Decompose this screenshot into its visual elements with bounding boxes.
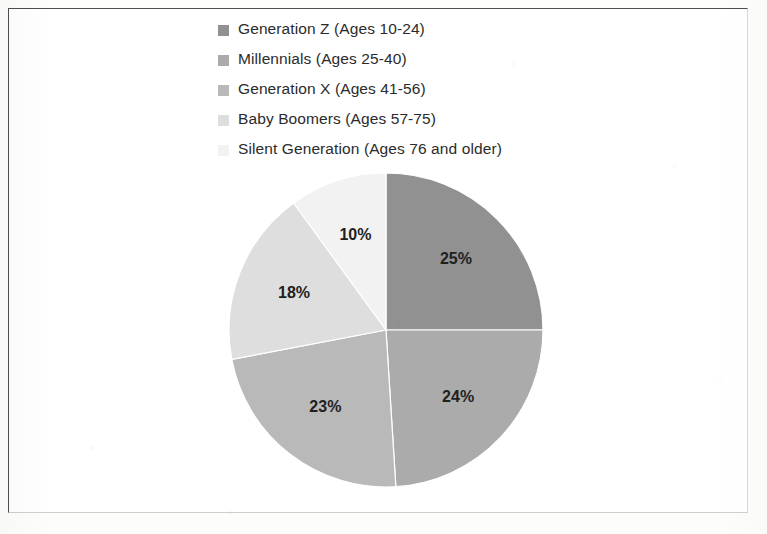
pie-data-label: 10% bbox=[339, 226, 371, 243]
legend-item-millennials[interactable]: Millennials (Ages 25-40) bbox=[218, 44, 502, 74]
legend-item-label: Generation Z (Ages 10-24) bbox=[238, 20, 425, 38]
pie-data-label: 18% bbox=[278, 284, 310, 301]
legend-swatch-icon bbox=[218, 145, 229, 156]
legend-item-generation-z[interactable]: Generation Z (Ages 10-24) bbox=[218, 14, 502, 44]
scanned-page: Generation Z (Ages 10-24) Millennials (A… bbox=[0, 0, 767, 534]
legend-item-silent-generation[interactable]: Silent Generation (Ages 76 and older) bbox=[218, 134, 502, 164]
legend-item-label: Millennials (Ages 25-40) bbox=[238, 50, 407, 68]
chart-legend: Generation Z (Ages 10-24) Millennials (A… bbox=[218, 14, 502, 164]
legend-item-label: Generation X (Ages 41-56) bbox=[238, 80, 426, 98]
legend-swatch-icon bbox=[218, 25, 229, 36]
pie-data-label: 23% bbox=[309, 398, 341, 415]
legend-swatch-icon bbox=[218, 115, 229, 126]
legend-item-generation-x[interactable]: Generation X (Ages 41-56) bbox=[218, 74, 502, 104]
pie-chart-svg: 25%24%23%18%10% bbox=[228, 172, 544, 488]
pie-slice[interactable] bbox=[386, 330, 543, 487]
legend-swatch-icon bbox=[218, 85, 229, 96]
legend-item-baby-boomers[interactable]: Baby Boomers (Ages 57-75) bbox=[218, 104, 502, 134]
pie-chart: 25%24%23%18%10% bbox=[228, 172, 544, 488]
legend-item-label: Baby Boomers (Ages 57-75) bbox=[238, 110, 436, 128]
legend-swatch-icon bbox=[218, 55, 229, 66]
pie-data-label: 24% bbox=[442, 388, 474, 405]
pie-data-label: 25% bbox=[440, 250, 472, 267]
pie-slice-group bbox=[229, 173, 543, 487]
legend-item-label: Silent Generation (Ages 76 and older) bbox=[238, 140, 502, 158]
